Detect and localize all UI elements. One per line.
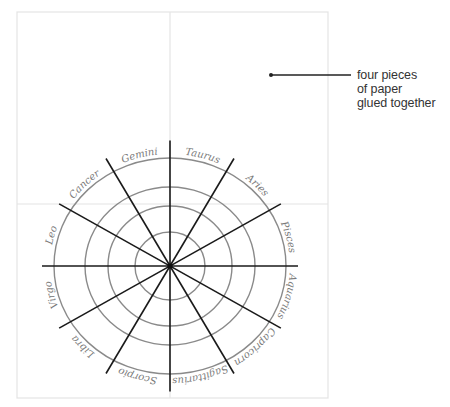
callout-label: four pieces of paper glued together	[357, 68, 436, 110]
callout-line-2: of paper	[357, 82, 436, 96]
paper-sheet	[17, 12, 328, 398]
callout-line-3: glued together	[357, 96, 436, 110]
paper-outline	[17, 12, 328, 398]
zodiac-wheel-diagram: PiscesAriesTaurusGeminiCancerLeoVirgoLib…	[0, 0, 450, 407]
callout-line-1: four pieces	[357, 68, 436, 82]
wheel-center-point	[167, 263, 172, 268]
